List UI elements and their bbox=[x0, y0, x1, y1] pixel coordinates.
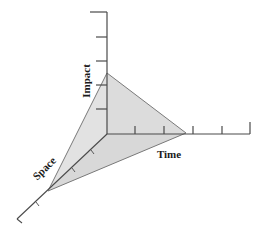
plane bbox=[48, 73, 186, 191]
space-axis-line bbox=[17, 134, 107, 219]
impact-axis-label: Impact bbox=[80, 64, 92, 98]
time-axis-label: Time bbox=[157, 148, 181, 160]
impact-time-space-diagram: Impact Time Space bbox=[0, 0, 264, 238]
space-axis-tick bbox=[36, 202, 39, 206]
space-axis-end-tick bbox=[17, 219, 22, 223]
